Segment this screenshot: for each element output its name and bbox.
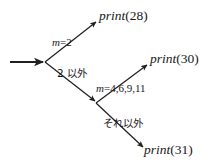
edge-label-mset: m=4,6,9,11: [96, 83, 146, 94]
edge-label-otherwise: それ以外: [103, 118, 143, 129]
leaf-print-30: print(30): [150, 52, 199, 66]
leaf-print-30-function: print: [150, 51, 176, 66]
edge-label-m2-var: m: [52, 36, 60, 48]
decision-tree-diagram: m=2 2 以外 m=4,6,9,11 それ以外 print(28) print…: [0, 0, 204, 166]
leaf-print-28-argument: (28): [125, 8, 148, 23]
edge-label-mset-var: m: [96, 82, 104, 94]
edge-label-m2-rest: =2: [60, 36, 72, 48]
leaf-print-31-argument: (31): [170, 142, 193, 157]
leaf-print-28-function: print: [99, 8, 125, 23]
leaf-print-31-function: print: [144, 142, 170, 157]
edge-label-m2: m=2: [52, 37, 72, 48]
leaf-print-28: print(28): [99, 9, 148, 23]
edge-label-mset-rest: =4,6,9,11: [104, 82, 146, 94]
edge-label-not2: 2 以外: [57, 68, 87, 79]
leaf-print-30-argument: (30): [176, 51, 199, 66]
leaf-print-31: print(31): [144, 143, 193, 157]
